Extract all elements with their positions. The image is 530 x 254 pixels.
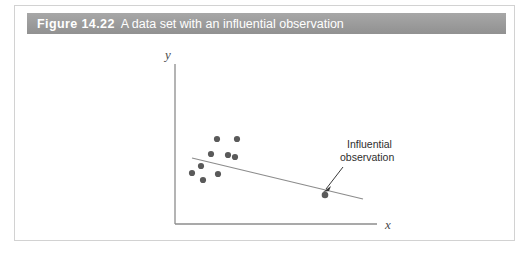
figure-caption-bar: Figure 14.22 A data set with an influent… — [27, 13, 506, 34]
annotation-arrow-shaft — [326, 167, 343, 189]
figure-container: Figure 14.22 A data set with an influent… — [14, 5, 515, 241]
data-point — [215, 171, 221, 177]
influential-observation-point — [322, 192, 329, 199]
y-axis-label: y — [163, 47, 171, 62]
figure-number-label: Figure 14.22 — [37, 17, 115, 31]
data-point — [189, 170, 195, 176]
regression-line — [192, 158, 363, 199]
data-point — [214, 136, 220, 142]
data-point — [208, 151, 214, 157]
data-point — [200, 177, 206, 183]
data-point — [225, 152, 231, 158]
x-axis-label: x — [384, 217, 391, 232]
data-point — [198, 163, 204, 169]
data-point — [234, 136, 240, 142]
influential-label-line1: Influential — [347, 138, 392, 150]
scatter-plot: y x Influential observation — [27, 40, 506, 236]
data-point — [232, 154, 238, 160]
figure-caption-label: A data set with an influential observati… — [121, 17, 344, 31]
influential-label-line2: observation — [340, 151, 394, 163]
scatter-plot-svg: y x Influential observation — [27, 40, 506, 236]
